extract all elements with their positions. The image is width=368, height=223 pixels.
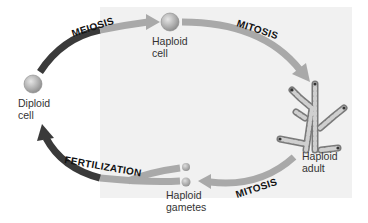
haploid-gamete-icon [182, 163, 190, 171]
haploid-gamete-icon [182, 178, 191, 187]
haploid-gametes-label-line1: Haploid [166, 189, 206, 201]
haploid-cell-label: Haploid cell [152, 35, 188, 59]
haploid-cell-label-line2: cell [152, 47, 188, 59]
haploid-adult-label-line2: adult [302, 162, 338, 174]
haploid-adult-label: Haploid adult [302, 150, 338, 174]
haploid-gametes-label: Haploid gametes [166, 189, 206, 213]
diploid-cell-label: Diploid cell [18, 97, 50, 121]
haploid-cell-label-line1: Haploid [152, 35, 188, 47]
fertilization-arrow [37, 124, 180, 182]
haploid-adult-filament-icon [278, 82, 345, 150]
diploid-cell-icon [24, 75, 42, 93]
diploid-cell-label-line2: cell [18, 109, 50, 121]
haploid-adult-label-line1: Haploid [302, 150, 338, 162]
mitosis-arrow-bottom [198, 157, 294, 189]
haploid-gametes-label-line2: gametes [166, 201, 206, 213]
diploid-cell-label-line1: Diploid [18, 97, 50, 109]
haploid-cell-icon [161, 13, 179, 31]
